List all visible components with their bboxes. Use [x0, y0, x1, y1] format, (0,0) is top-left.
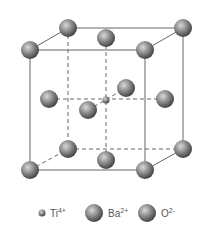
ba-atom	[59, 140, 77, 158]
ba-atom	[174, 140, 192, 158]
ba-atom	[174, 19, 192, 37]
legend-item-ti: Ti4+	[38, 198, 66, 228]
legend: Ti4+ Ba2+ O2-	[0, 198, 204, 228]
legend-item-o: O2-	[137, 198, 175, 228]
o-atom	[97, 29, 115, 47]
o-atom-icon	[137, 203, 157, 223]
legend-label-o: O2-	[161, 207, 175, 219]
ti-atom-icon	[38, 209, 46, 217]
legend-item-ba: Ba2+	[84, 198, 128, 228]
o-atom	[156, 90, 174, 108]
legend-label-ti: Ti4+	[50, 207, 66, 219]
o-atom	[97, 151, 115, 169]
legend-label-ba: Ba2+	[108, 207, 128, 219]
ba-atom	[21, 41, 39, 59]
o-atom	[79, 101, 97, 119]
ba-atom	[136, 161, 154, 179]
ba-atom-icon	[84, 203, 104, 223]
ti-atom	[103, 97, 110, 104]
ba-atom	[21, 161, 39, 179]
ba-atom	[136, 41, 154, 59]
atoms	[21, 19, 192, 179]
o-atom	[40, 90, 58, 108]
ba-atom	[59, 19, 77, 37]
o-atom	[117, 79, 135, 97]
